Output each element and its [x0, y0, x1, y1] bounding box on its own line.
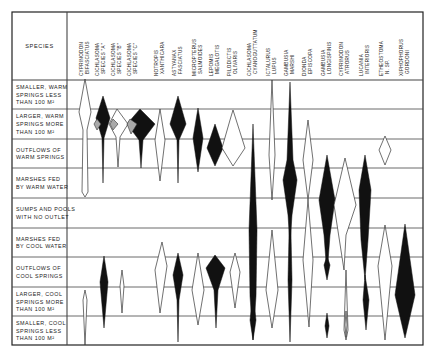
species-genus: CICHLASOMA [111, 42, 116, 76]
habitat-label: THAN 100 M² [16, 129, 54, 135]
distribution-shape-open [109, 109, 128, 167]
species-genus: DIONDA [302, 56, 307, 76]
distribution-shape-open [79, 79, 91, 197]
distribution-shape-filled [207, 124, 223, 166]
species-genus: ASTYANAX [172, 49, 177, 76]
habitat-label: OUTFLOWS OF [16, 147, 61, 153]
species-header: CYPRINODONATRORUS [339, 42, 350, 76]
distribution-shape-filled [100, 256, 108, 328]
distribution-shape-open [230, 253, 240, 308]
species-epithet: MARSHI [290, 54, 295, 74]
species-genus: CYPRINODON [339, 42, 344, 76]
species-epithet: SPECIES "C" [133, 43, 138, 74]
species-genus: LUCANIA [359, 53, 364, 76]
distribution-shape-filled [363, 275, 369, 330]
species-genus: MICROPTERUS [192, 39, 197, 76]
species-epithet: LUPUS [272, 57, 277, 74]
species-column-headers: CYPRINODONBIFASCIATUSCICHLASOMASPECIES "… [79, 29, 410, 76]
habitat-label: LARGER, COOL [16, 291, 62, 297]
distribution-shape-open [155, 242, 167, 313]
distribution-shape-filled [359, 155, 371, 280]
distribution-shape-filled [395, 224, 415, 338]
species-epithet: OLIVARIS [233, 51, 238, 74]
distribution-shapes [79, 79, 415, 345]
habitat-label: THAN 100 M² [16, 335, 54, 341]
distribution-shape-filled [127, 109, 155, 168]
distribution-shape-open [83, 290, 87, 345]
species-header: ETHEOSTOMAN. SP. [379, 40, 390, 76]
habitat-row-labels: SMALLER, WARMSPRINGS LESSTHAN 100 M²LARG… [16, 84, 75, 341]
species-header: CYPRINODONBIFASCIATUS [79, 41, 90, 76]
species-header: GAMBUSIAMARSHI [284, 49, 295, 76]
species-header: CICHLASOMACYANOGUTTATUM [247, 29, 258, 76]
species-epithet: SPECIES "B" [117, 43, 122, 74]
distribution-shape-open [155, 109, 165, 181]
habitat-label: SUMPS AND POOLS [16, 206, 75, 212]
species-header: ICTALURUSLUPUS [266, 48, 277, 76]
habitat-label: MARSHES FED [16, 176, 60, 182]
habitat-distribution-diagram: SPECIES SMALLER, WARMSPRINGS LESSTHAN 10… [0, 0, 431, 353]
species-genus: CICHLASOMA [247, 42, 252, 76]
distribution-shape-open [222, 110, 245, 166]
habitat-label: LARGER, WARM [16, 113, 64, 119]
species-epithet: ATRORUS [345, 50, 350, 74]
species-header: ASTYANAXFASCIATUS [172, 46, 183, 76]
species-genus: PILODICTIS [227, 47, 232, 76]
species-genus: ICTALURUS [266, 48, 271, 76]
species-header: CICHLASOMASPECIES "C" [127, 42, 138, 76]
species-epithet: INTERIORIS [365, 45, 370, 74]
distribution-shape-open [192, 253, 204, 325]
distribution-shape-filled [324, 256, 330, 280]
species-header: XIPHOPHORUSGORDONI [399, 39, 410, 76]
species-header-label: SPECIES [25, 43, 53, 49]
species-header: CICHLASOMASPECIES "A" [95, 42, 106, 76]
species-epithet: CYANOGUTTATUM [253, 29, 258, 74]
species-genus: CYPRINODON [79, 42, 84, 76]
species-epithet: N. SP. [385, 60, 390, 74]
habitat-label: OUTFLOWS OF [16, 265, 61, 271]
distribution-shape-filled [193, 108, 203, 172]
species-genus: ETHEOSTOMA [379, 40, 384, 76]
species-epithet: XANTHICARA [160, 41, 165, 74]
distribution-shape-open [266, 230, 278, 328]
species-epithet: LONGISPINIS [327, 41, 332, 74]
habitat-label: BY WARM WATER [16, 184, 68, 190]
species-genus: GAMBUSIA [284, 49, 289, 76]
distribution-shape-open [334, 158, 356, 270]
species-genus: GAMBUSIA [321, 49, 326, 76]
distribution-shape-open [303, 120, 313, 200]
habitat-label: SMALLER, COOL [16, 320, 66, 326]
habitat-label: THAN 100 M² [16, 99, 54, 105]
distribution-shape-open [269, 80, 275, 200]
species-genus: CICHLASOMA [127, 42, 132, 76]
habitat-label: MARSHES FED [16, 236, 60, 242]
distribution-shape-filled [173, 253, 183, 342]
species-epithet: EPISCOPA [308, 48, 313, 74]
distribution-shape-open [303, 200, 313, 327]
habitat-label: SPRINGS LESS [16, 328, 62, 334]
species-header: NOTROPISXANTHICARA [154, 41, 165, 76]
species-header: CICHLASOMASPECIES "B" [111, 42, 122, 76]
species-header: PILODICTISOLIVARIS [227, 47, 238, 76]
distribution-shape-open [120, 270, 124, 313]
species-header: DIONDAEPISCOPA [302, 48, 313, 76]
species-genus: NOTROPIS [154, 50, 159, 76]
species-genus: CICHLASOMA [95, 42, 100, 76]
habitat-label: WITH NO OUTLET [16, 214, 69, 220]
habitat-label: SPRINGS LESS [16, 92, 62, 98]
species-epithet: GORDONI [405, 50, 410, 74]
habitat-label: SMALLER, WARM [16, 84, 68, 90]
species-epithet: FASCIATUS [178, 46, 183, 74]
distribution-shape-open [378, 225, 392, 340]
habitat-label: WARM SPRINGS [16, 154, 65, 160]
species-header: MICROPTERUSSALMOIDES [192, 39, 203, 76]
habitat-label: COOL SPRINGS [16, 273, 63, 279]
habitat-label: BY COOL WATER [16, 243, 67, 249]
habitat-label: THAN 100 M² [16, 306, 54, 312]
species-epithet: MEGALOTIS [215, 44, 220, 74]
species-genus: XIPHOPHORUS [399, 39, 404, 76]
habitat-label: SPRINGS MORE [16, 299, 64, 305]
species-genus: LEPOMIS [209, 53, 214, 76]
distribution-shape-filled [325, 313, 329, 338]
species-epithet: BIFASCIATUS [85, 41, 90, 74]
